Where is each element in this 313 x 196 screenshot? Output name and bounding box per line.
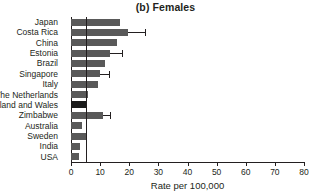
category-label: USA	[0, 152, 58, 162]
chart-container: (b) Females JapanCosta RicaChinaEstoniaB…	[0, 0, 313, 196]
tick-mark	[246, 162, 247, 166]
bar-row: England and Wales	[71, 100, 304, 110]
plot-area: JapanCosta RicaChinaEstoniaBrazilSingapo…	[71, 17, 304, 162]
error-bar	[110, 53, 122, 54]
error-bar	[128, 32, 145, 33]
category-label: Japan	[0, 17, 58, 27]
error-bar-cap	[122, 50, 123, 57]
bar-rows: JapanCosta RicaChinaEstoniaBrazilSingapo…	[71, 17, 304, 162]
category-label: Singapore	[0, 69, 58, 79]
bar	[71, 122, 82, 129]
error-bar	[103, 115, 110, 116]
x-axis-label: Rate per 100,000	[71, 180, 304, 191]
category-label: Brazil	[0, 58, 58, 68]
tick-mark	[158, 162, 159, 166]
bar-row: Italy	[71, 79, 304, 89]
category-label: England and Wales	[0, 100, 58, 110]
tick-mark	[275, 162, 276, 166]
error-bar	[100, 74, 109, 75]
bar-row: Japan	[71, 17, 304, 27]
bar-row: Brazil	[71, 58, 304, 68]
category-label: Italy	[0, 79, 58, 89]
bar	[71, 143, 80, 150]
bar-row: Sweden	[71, 131, 304, 141]
category-label: Costa Rica	[0, 27, 58, 37]
tick-mark	[129, 162, 130, 166]
chart-title: (b) Females	[0, 1, 313, 13]
tick-mark	[71, 162, 72, 166]
bar-row: Singapore	[71, 69, 304, 79]
category-label: Australia	[0, 121, 58, 131]
category-label: Estonia	[0, 48, 58, 58]
bar-row: Australia	[71, 121, 304, 131]
bar-row: Costa Rica	[71, 27, 304, 37]
bar	[71, 19, 120, 26]
bar-row: The Netherlands	[71, 90, 304, 100]
bar-row: China	[71, 38, 304, 48]
bar-row: Estonia	[71, 48, 304, 58]
bar	[71, 153, 79, 160]
bar-row: USA	[71, 152, 304, 162]
error-bar-cap	[109, 71, 110, 78]
category-label: India	[0, 141, 58, 151]
error-bar-cap	[145, 29, 146, 36]
category-label: Sweden	[0, 131, 58, 141]
tick-mark	[100, 162, 101, 166]
bar	[71, 60, 105, 67]
tick-mark	[217, 162, 218, 166]
tick-mark	[188, 162, 189, 166]
bar	[71, 133, 86, 140]
bar	[71, 81, 98, 88]
bar	[71, 50, 110, 57]
tick-label: 80	[284, 167, 313, 177]
bar-row: India	[71, 141, 304, 151]
category-label: Zimbabwe	[0, 110, 58, 120]
bar	[71, 39, 117, 46]
category-label: The Netherlands	[0, 90, 58, 100]
bar-row: Zimbabwe	[71, 110, 304, 120]
reference-line	[86, 17, 87, 162]
error-bar-cap	[110, 112, 111, 119]
bar	[71, 101, 86, 108]
category-label: China	[0, 38, 58, 48]
tick-mark	[304, 162, 305, 166]
bar	[71, 29, 128, 36]
